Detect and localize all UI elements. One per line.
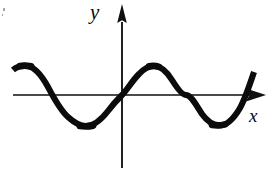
sine-wave-figure: y x <box>0 0 272 173</box>
sine-curve-crest2-emphasis <box>149 66 159 67</box>
sine-curve-crest-emphasis <box>20 66 31 67</box>
figure-background <box>0 0 272 173</box>
x-axis-label: x <box>249 106 257 125</box>
sine-curve-trough-emphasis <box>80 126 93 127</box>
y-axis-label: y <box>90 2 99 23</box>
scan-speck <box>2 14 3 16</box>
plot-canvas <box>0 0 272 173</box>
scan-speck <box>3 8 5 11</box>
sine-curve-trough2-emphasis <box>212 124 225 125</box>
